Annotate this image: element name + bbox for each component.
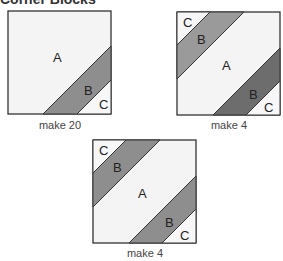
block-double-corner-dark: C B A B C (176, 11, 282, 117)
label-b1: B (197, 32, 206, 47)
label-c2: C (264, 100, 273, 115)
label-a: A (222, 58, 231, 73)
caption-block-3: make 4 (90, 247, 200, 259)
label-b2: B (165, 215, 174, 230)
label-c1: C (99, 143, 108, 158)
label-b: B (84, 83, 93, 98)
label-c1: C (183, 15, 192, 30)
block-double-corner: C B A B C (92, 139, 198, 245)
label-a: A (53, 50, 62, 65)
block-single-corner: A B C (7, 10, 113, 116)
label-b1: B (113, 160, 122, 175)
label-a: A (138, 186, 147, 201)
label-c2: C (180, 228, 189, 243)
label-b2: B (249, 87, 258, 102)
caption-block-2: make 4 (174, 119, 283, 131)
section-heading: Corner Blocks (0, 0, 96, 7)
caption-block-1: make 20 (5, 119, 115, 131)
label-c: C (99, 97, 108, 112)
